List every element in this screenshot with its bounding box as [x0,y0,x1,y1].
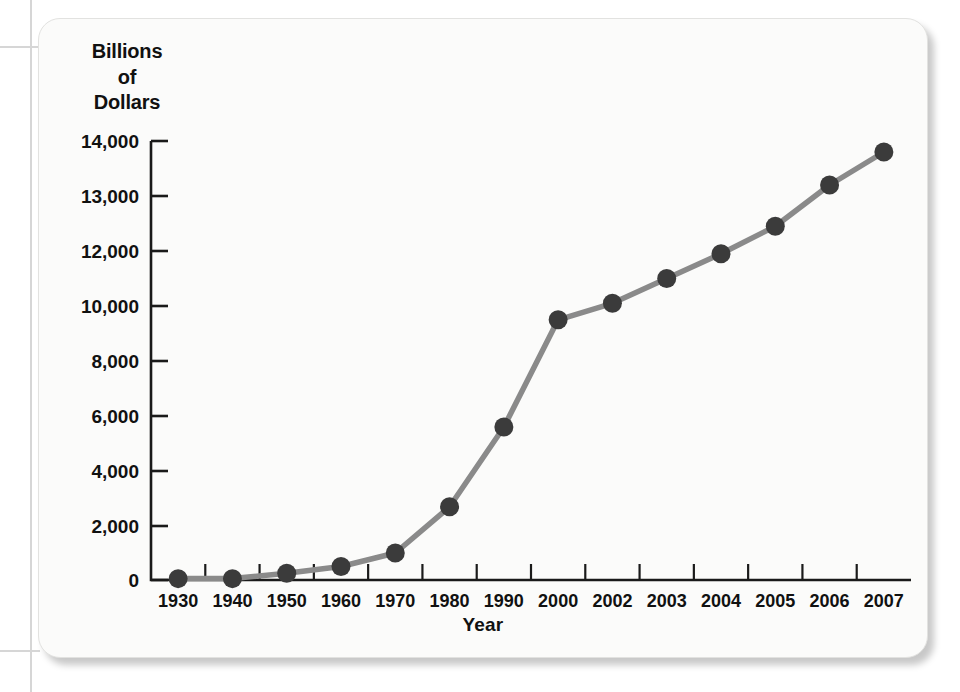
data-marker [820,176,839,195]
data-marker [332,557,351,576]
plot-area: Billions of Dollars 19301940195019601970… [39,19,927,657]
x-axis-title: Year [39,614,927,636]
y-axis-tick-label: 0 [128,570,139,591]
x-axis-tick-label: 2004 [701,591,741,611]
y-axis-tick-label: 2,000 [91,516,139,537]
y-axis-tick-label: 8,000 [91,351,139,372]
x-axis-tick-label: 1940 [212,591,252,611]
data-line [178,152,884,579]
x-axis-tick-label: 2003 [647,591,687,611]
data-marker [657,269,676,288]
y-axis-tick-label: 10,000 [81,296,139,317]
data-marker [712,244,731,263]
y-axis-tick-label: 6,000 [91,406,139,427]
x-axis-tick-label: 1930 [158,591,198,611]
page-edge-rule-bottom [0,650,40,652]
page-edge-rule-left [30,0,32,692]
chart-svg: 1930194019501960197019801990200020022003… [39,19,927,657]
data-marker [386,544,405,563]
y-axis-tick-label: 13,000 [81,186,139,207]
page-edge-rule-top [0,46,40,48]
data-marker [440,497,459,516]
y-axis-tick-label: 4,000 [91,461,139,482]
data-marker [603,294,622,313]
x-axis-tick-label: 1990 [484,591,524,611]
data-marker-group [169,143,894,589]
data-marker [766,217,785,236]
x-axis-tick-label: 2002 [592,591,632,611]
x-axis-tick-label: 1960 [321,591,361,611]
x-axis-tick-label: 2006 [810,591,850,611]
x-axis-tick-label: 2000 [538,591,578,611]
data-marker [874,143,893,162]
figure-page: Billions of Dollars 19301940195019601970… [0,0,960,692]
y-axis-tick-label: 12,000 [81,241,139,262]
data-marker [549,310,568,329]
y-axis-tick-group [151,141,168,580]
x-axis-tick-label: 1970 [375,591,415,611]
chart-card: Billions of Dollars 19301940195019601970… [38,18,928,658]
x-axis-label-group: 1930194019501960197019801990200020022003… [158,591,904,611]
data-marker [223,569,242,588]
data-marker [277,564,296,583]
y-axis-label-group: 14,00013,00012,00010,0008,0006,0004,0002… [81,131,139,591]
data-marker [494,418,513,437]
y-axis-tick-label: 14,000 [81,131,139,152]
x-axis-tick-label: 1950 [267,591,307,611]
x-axis-tick-label: 2005 [755,591,795,611]
x-axis-tick-label: 1980 [430,591,470,611]
data-marker [169,569,188,588]
x-axis-tick-label: 2007 [864,591,904,611]
